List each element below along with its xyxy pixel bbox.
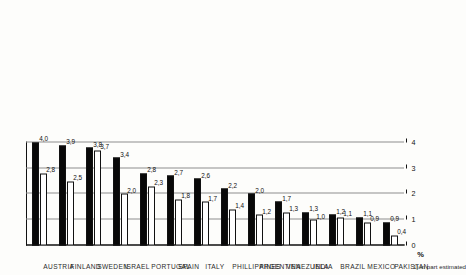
- category-label: ITALY: [205, 264, 224, 271]
- bar: [256, 214, 263, 245]
- bar-value-label: 0,4: [398, 229, 407, 235]
- bar-value-label: 2,8: [47, 167, 56, 173]
- category-label: AUSTRIA: [43, 264, 74, 271]
- bar: [140, 173, 147, 245]
- bar: [67, 181, 74, 245]
- bar: [221, 188, 228, 245]
- bar: [194, 178, 201, 245]
- bar: [364, 222, 371, 245]
- zero-axis-line: [26, 244, 404, 245]
- bar: [248, 194, 255, 246]
- bar: [94, 150, 101, 245]
- bar: [391, 235, 398, 245]
- bar: [329, 214, 336, 245]
- bar: [302, 212, 309, 245]
- bar-value-label: 1,3: [290, 206, 299, 212]
- category-label: FINLAND: [70, 264, 101, 271]
- bar: [229, 209, 236, 245]
- gridline: [26, 167, 404, 168]
- tick-label: 0: [407, 241, 421, 248]
- bar-value-label: 1,0: [317, 214, 326, 220]
- bar-value-label: 2,7: [174, 170, 183, 176]
- bar-value-label: 3,4: [120, 152, 129, 158]
- bar-value-label: 2,3: [155, 180, 164, 186]
- category-label: SWEDEN: [97, 264, 128, 271]
- bar: [113, 157, 120, 245]
- tick-label: 3: [407, 164, 421, 171]
- bar: [148, 186, 155, 245]
- bar: [40, 173, 47, 245]
- tick-label: 4: [407, 138, 421, 145]
- category-label: BRAZIL: [340, 264, 365, 271]
- bar: [383, 222, 390, 245]
- bar: [283, 212, 290, 245]
- bar-value-label: 2,8: [147, 167, 156, 173]
- category-label: SPAIN: [178, 264, 199, 271]
- value-axis-label: %: [417, 249, 424, 258]
- bar: [86, 147, 93, 245]
- bar-value-label: 1,7: [209, 196, 218, 202]
- bar-value-label: 2,6: [201, 172, 210, 178]
- bar-value-label: 2,0: [128, 188, 137, 194]
- bar-value-label: 3,9: [66, 139, 75, 145]
- category-label: MEXICO: [367, 264, 395, 271]
- bar-value-label: 1,4: [236, 203, 245, 209]
- gridline: [26, 218, 404, 219]
- bar-value-label: 4,0: [39, 136, 48, 142]
- bar: [32, 142, 39, 245]
- bar-value-label: 0,9: [371, 216, 380, 222]
- bar: [337, 217, 344, 245]
- bar-value-label: 1,8: [182, 193, 191, 199]
- bar-value-label: 0,9: [390, 216, 399, 222]
- bar-value-label: 1,2: [263, 208, 272, 214]
- bar-value-label: 3,7: [101, 144, 110, 150]
- bar-value-label: 1,3: [309, 206, 318, 212]
- bar-value-label: 2,0: [255, 188, 264, 194]
- gridline: [26, 141, 404, 142]
- tick-label: 2: [407, 190, 421, 197]
- bar: [167, 175, 174, 245]
- category-label: ISRAEL: [124, 264, 150, 271]
- bar: [356, 217, 363, 245]
- bar: [59, 145, 66, 245]
- tick-label: 1: [407, 216, 421, 223]
- bar: [275, 201, 282, 245]
- bar: [310, 219, 317, 245]
- bar: [121, 194, 128, 246]
- category-label: INDIA: [313, 264, 332, 271]
- bar: [202, 201, 209, 245]
- bar-value-label: 2,2: [228, 183, 237, 189]
- bar-value-label: 1,1: [344, 211, 353, 217]
- bar-value-label: 2,5: [74, 175, 83, 181]
- bar-value-label: 1,7: [282, 196, 291, 202]
- footnote: 1) in part estimated: [413, 264, 466, 270]
- gridline: [26, 193, 404, 194]
- bar: [175, 199, 182, 245]
